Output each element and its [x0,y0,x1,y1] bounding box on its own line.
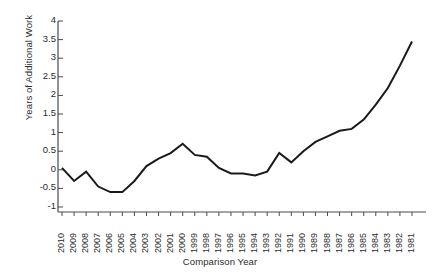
axis-lines [58,21,426,212]
plot-area [0,0,440,275]
tick-marks [58,21,412,216]
data-series-line [62,41,412,192]
line-chart: Years of Additional Work Comparison Year… [0,0,440,275]
